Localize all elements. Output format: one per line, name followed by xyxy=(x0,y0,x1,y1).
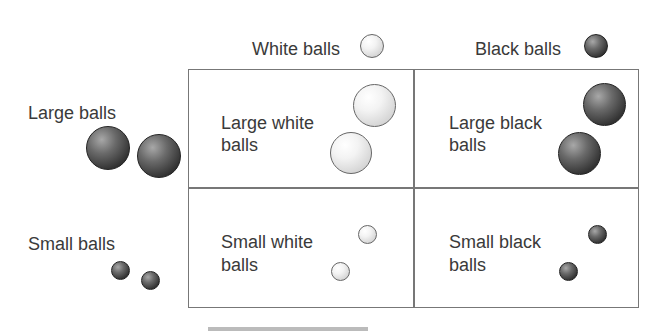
large-black-ball-icon xyxy=(583,83,626,126)
small-ball-icon xyxy=(111,261,130,280)
grid-divider-vertical xyxy=(413,69,415,308)
black-ball-icon xyxy=(584,34,608,58)
bottom-gray-bar xyxy=(208,327,368,331)
small-black-ball-icon xyxy=(559,262,578,281)
small-ball-icon xyxy=(141,271,160,290)
cell-label-line2: balls xyxy=(449,254,486,276)
cell-label-line1: Small black xyxy=(449,231,541,253)
cell-label-line1: Small white xyxy=(221,231,313,253)
cell-label-line1: Large white xyxy=(221,112,314,134)
cell-label-line2: balls xyxy=(449,134,486,156)
large-ball-icon xyxy=(86,126,130,170)
cell-label-line2: balls xyxy=(221,134,258,156)
small-black-ball-icon xyxy=(588,225,607,244)
large-white-ball-icon xyxy=(353,84,396,127)
large-white-ball-icon xyxy=(330,132,372,174)
white-balls-label: White balls xyxy=(252,38,340,60)
cell-label-line1: Large black xyxy=(449,112,542,134)
small-balls-label: Small balls xyxy=(28,233,115,255)
black-balls-label: Black balls xyxy=(475,38,561,60)
white-ball-icon xyxy=(360,34,384,58)
large-ball-icon xyxy=(137,134,181,178)
cell-label-line2: balls xyxy=(221,254,258,276)
small-white-ball-icon xyxy=(358,225,377,244)
large-balls-label: Large balls xyxy=(28,102,116,124)
small-white-ball-icon xyxy=(331,262,350,281)
large-black-ball-icon xyxy=(558,132,601,175)
